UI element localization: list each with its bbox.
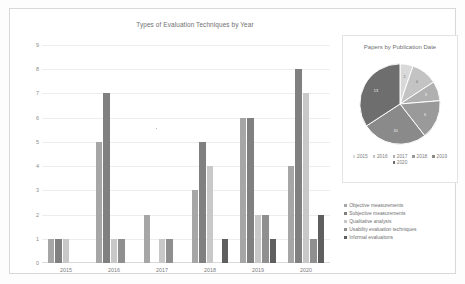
pie-slice-value-label: 2: [403, 75, 405, 79]
legend-item[interactable]: Informal evaluaitons: [344, 235, 462, 240]
pie-legend-label: 2018: [417, 154, 428, 159]
pie-chart-title: Papers by Publication Date: [343, 44, 457, 50]
y-axis-tick-label: 0: [25, 260, 39, 266]
bar-group: [90, 45, 138, 263]
pie-legend-label: 2017: [397, 154, 408, 159]
legend-swatch-icon: [344, 212, 347, 215]
legend-item-label: Objective measurements: [349, 203, 403, 208]
bar: [310, 239, 316, 263]
pie-legend-swatch-icon: [353, 155, 356, 158]
bar-chart-plot-area: 0123456789: [42, 45, 330, 263]
y-axis-tick-label: 9: [25, 42, 39, 48]
pie-legend-label: 2019: [436, 154, 447, 159]
pie-legend-swatch-icon: [432, 155, 435, 158]
bar-chart-title: Types of Evaluation Techniques by Year: [65, 21, 325, 28]
bar: [270, 239, 276, 263]
y-axis-tick-label: 4: [25, 163, 39, 169]
legend-swatch-icon: [344, 236, 347, 239]
bar: [199, 142, 205, 263]
bar: [192, 190, 198, 263]
pie-slice-value-label: 4: [416, 80, 418, 84]
bar-groups: [42, 45, 330, 263]
pie-chart-panel: Papers by Publication Date 24361013 2015…: [342, 35, 458, 183]
bar: [288, 166, 294, 263]
x-axis-label: 2020: [282, 267, 330, 273]
bar: [96, 142, 102, 263]
chart-frame: Types of Evaluation Techniques by Year 0…: [9, 8, 456, 274]
pie-legend-item[interactable]: 2017: [393, 154, 408, 159]
pie-slice-value-label: 6: [424, 113, 426, 117]
y-axis-tick-label: 3: [25, 187, 39, 193]
pie-slice-value-label: 3: [425, 93, 427, 97]
bar: [118, 239, 124, 263]
pie-slice-value-label: 13: [374, 89, 378, 93]
y-axis-tick-label: 8: [25, 66, 39, 72]
pie-legend-swatch-icon: [373, 155, 376, 158]
bar: [55, 239, 61, 263]
bar: [295, 69, 301, 263]
x-axis-label: 2017: [138, 267, 186, 273]
bar-group: [282, 45, 330, 263]
bar: [103, 93, 109, 263]
bar: [159, 239, 165, 263]
bar: [144, 215, 150, 263]
pie-legend-swatch-icon: [393, 161, 396, 164]
bar: [262, 215, 268, 263]
bar: [111, 239, 117, 263]
legend-item-label: Informal evaluaitons: [349, 235, 393, 240]
pie-legend-item[interactable]: 2020: [393, 160, 408, 165]
bar: [240, 118, 246, 263]
pie-legend-item[interactable]: 2015: [353, 154, 368, 159]
pie-legend-item[interactable]: 2019: [432, 154, 447, 159]
pie-legend-item[interactable]: 2016: [373, 154, 388, 159]
legend-item-label: Usability evaluation techniques: [349, 227, 416, 232]
bar-group: [42, 45, 90, 263]
x-axis-label: 2016: [90, 267, 138, 273]
y-axis-tick-label: 6: [25, 115, 39, 121]
x-axis-label: 2019: [234, 267, 282, 273]
bar-group: [138, 45, 186, 263]
bar-group: [234, 45, 282, 263]
stray-mark: [156, 128, 157, 129]
y-axis-tick-label: 1: [25, 236, 39, 242]
pie-svg: 24361013: [359, 63, 441, 145]
bar: [222, 239, 228, 263]
x-axis-labels: 201520162017201820192020: [42, 267, 330, 273]
legend-item-label: Qualitative analysis: [349, 219, 391, 224]
bar: [48, 239, 54, 263]
y-axis-tick-label: 2: [25, 212, 39, 218]
pie-chart-graphic: 24361013: [359, 63, 441, 145]
bar: [255, 215, 261, 263]
bar: [318, 215, 324, 263]
legend-swatch-icon: [344, 204, 347, 207]
pie-legend-label: 2020: [397, 160, 408, 165]
pie-legend-swatch-icon: [412, 155, 415, 158]
legend-item-label: Subjective measurements: [349, 211, 405, 216]
y-axis-tick-label: 7: [25, 90, 39, 96]
legend-item[interactable]: Objective measurements: [344, 203, 462, 208]
legend-swatch-icon: [344, 228, 347, 231]
bar: [207, 166, 213, 263]
bar: [303, 93, 309, 263]
legend-swatch-icon: [344, 220, 347, 223]
pie-slice-value-label: 10: [393, 129, 397, 133]
pie-legend-label: 2016: [377, 154, 388, 159]
pie-legend-swatch-icon: [393, 155, 396, 158]
legend-item[interactable]: Usability evaluation techniques: [344, 227, 462, 232]
bar-group: [186, 45, 234, 263]
pie-legend-item[interactable]: 2018: [412, 154, 427, 159]
bar-chart-legend: Objective measurementsSubjective measure…: [344, 203, 462, 240]
y-axis-tick-label: 5: [25, 139, 39, 145]
bar: [247, 118, 253, 263]
x-axis-label: 2015: [42, 267, 90, 273]
pie-legend-label: 2015: [357, 154, 368, 159]
bar: [166, 239, 172, 263]
x-axis-label: 2018: [186, 267, 234, 273]
legend-item[interactable]: Subjective measurements: [344, 211, 462, 216]
bar: [63, 239, 69, 263]
legend-item[interactable]: Qualitative analysis: [344, 219, 462, 224]
pie-chart-legend: 201520162017201820192020: [343, 154, 457, 165]
screenshot-root: Types of Evaluation Techniques by Year 0…: [0, 0, 465, 284]
